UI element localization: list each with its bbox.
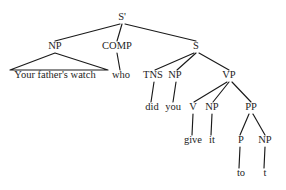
tree-triangle-np1-to-phrase1: [10, 53, 108, 70]
syntax-tree-diagram: S'NPCOMPSYour father's watchwhoTNSNPVPdi…: [0, 0, 286, 190]
tree-edge-p-to-to: [239, 147, 240, 168]
tree-triangle-layer: [10, 53, 108, 70]
tree-edge-sbar-to-np1: [55, 24, 120, 41]
tree-node-p: P: [238, 134, 244, 145]
tree-node-pp: PP: [245, 101, 257, 112]
tree-node-trace: t: [264, 167, 267, 178]
tree-edge-s-to-np2: [177, 53, 196, 70]
tree-edge-sbar-to-comp: [117, 24, 122, 41]
tree-node-you: you: [165, 101, 182, 112]
tree-edge-pp-to-np4: [253, 114, 265, 135]
tree-edge-vp-to-pp: [232, 82, 251, 102]
tree-node-np1: NP: [48, 40, 62, 51]
tree-node-comp: COMP: [102, 40, 132, 51]
tree-edge-v-to-give: [192, 114, 193, 135]
tree-edge-s-to-tns: [155, 53, 194, 70]
tree-node-give: give: [184, 134, 202, 145]
tree-node-np4: NP: [258, 134, 272, 145]
tree-edge-layer: [55, 24, 265, 168]
tree-edge-s-to-vp: [199, 53, 229, 70]
tree-node-tns: TNS: [143, 69, 163, 80]
tree-edge-vp-to-v: [194, 82, 227, 102]
tree-node-np3: NP: [205, 101, 219, 112]
tree-node-it: it: [209, 134, 215, 145]
tree-node-s: S: [193, 40, 199, 51]
tree-node-np2: NP: [168, 69, 182, 80]
tree-edge-sbar-to-s: [125, 24, 196, 41]
tree-edge-tns-to-did: [151, 82, 154, 102]
tree-node-to: to: [237, 167, 245, 178]
tree-node-vp: VP: [222, 69, 236, 80]
tree-node-phrase1: Your father's watch: [14, 69, 96, 80]
tree-node-v: V: [189, 101, 197, 112]
tree-node-sbar: S': [118, 11, 126, 22]
tree-edge-comp-to-who: [117, 53, 120, 70]
tree-edge-pp-to-p: [240, 114, 249, 135]
tree-node-did: did: [145, 101, 159, 112]
tree-node-who: who: [112, 69, 130, 80]
tree-edge-np4-to-trace: [264, 147, 265, 168]
tree-label-layer: S'NPCOMPSYour father's watchwhoTNSNPVPdi…: [14, 11, 272, 178]
tree-edge-np3-to-it: [211, 114, 212, 135]
tree-edge-np2-to-you: [173, 82, 176, 102]
